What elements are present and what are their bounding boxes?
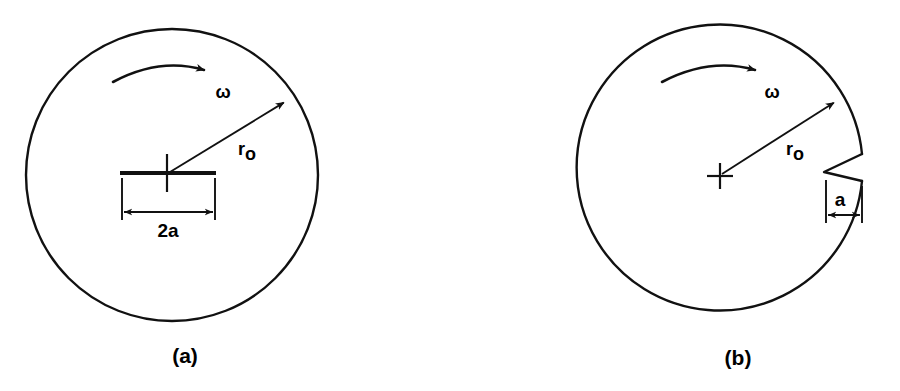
radius-arrow-b (722, 103, 834, 174)
radius-label-main-b: r (786, 139, 793, 159)
panel-caption-a: (a) (172, 344, 198, 367)
crack-length-label-a: 2a (157, 220, 179, 241)
rotation-arc-arrow-b (662, 66, 755, 82)
panel-caption-b: (b) (725, 346, 752, 369)
omega-label-b: ω (764, 82, 779, 102)
technical-diagram-canvas: ω ro 2a (a) (0, 0, 900, 391)
omega-label-a: ω (215, 82, 230, 102)
radius-label-a: ro (238, 139, 256, 164)
radius-arrow-a (170, 103, 284, 172)
radius-label-subscript-a: o (245, 144, 256, 164)
crack-length-dimension-a (122, 178, 215, 220)
edge-notch-b (824, 154, 862, 181)
figure-root: ω ro 2a (a) (0, 0, 900, 391)
notch-depth-label-b: a (835, 189, 846, 210)
center-cross-b (707, 163, 733, 189)
panel-b: ω ro a (b) (577, 24, 862, 369)
radius-label-main-a: r (238, 139, 245, 159)
rotation-arc-arrow-a (113, 66, 204, 82)
radius-label-subscript-b: o (793, 144, 804, 164)
radius-label-b: ro (786, 139, 804, 164)
panel-a: ω ro 2a (a) (26, 29, 318, 367)
